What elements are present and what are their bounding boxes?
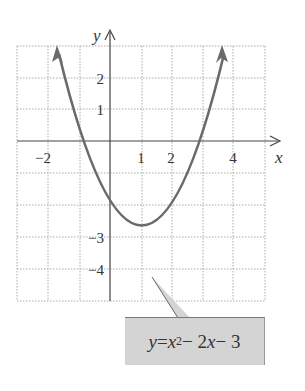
y-tick-neg3: −3	[88, 230, 104, 246]
equation-callout: y = x2 − 2x − 3	[125, 317, 265, 365]
x-tick-neg2: −2	[35, 150, 51, 166]
x-tick-4: 4	[229, 150, 237, 166]
eq-x: x	[168, 331, 176, 353]
axes	[17, 30, 280, 301]
eq-minus-2: − 2	[182, 331, 207, 353]
eq-x2: x	[207, 331, 215, 353]
y-tick-neg4: −4	[88, 262, 104, 278]
x-tick-1: 1	[137, 150, 145, 166]
callout-pointer	[152, 277, 190, 318]
y-axis-label: y	[91, 26, 101, 45]
y-tick-2: 2	[97, 71, 105, 87]
y-tick-1: 1	[97, 102, 105, 118]
eq-y: y	[149, 331, 157, 353]
eq-minus-3: − 3	[216, 331, 241, 353]
x-tick-2: 2	[167, 150, 175, 166]
x-axis-label: x	[274, 148, 283, 167]
arrow-left-icon	[52, 45, 63, 63]
grid	[17, 46, 265, 301]
eq-equals: =	[157, 331, 168, 353]
